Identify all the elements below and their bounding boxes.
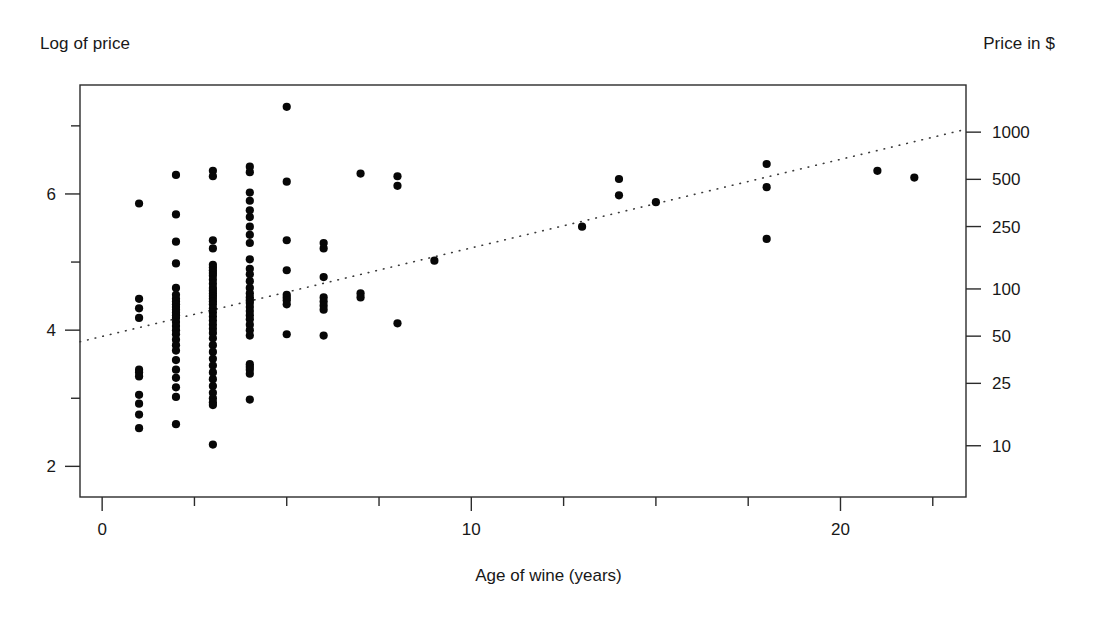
data-point [615,191,623,199]
data-point [283,330,291,338]
data-point [135,372,143,380]
y2-tick-label: 25 [992,374,1011,393]
data-point [172,238,180,246]
data-point [135,199,143,207]
data-point [209,244,217,252]
data-point [135,424,143,432]
data-point [430,257,438,265]
data-point [135,314,143,322]
data-point [356,293,364,301]
data-point [172,393,180,401]
y2-tick-label: 10 [992,437,1011,456]
x-tick-label: 20 [831,520,850,539]
data-point [763,160,771,168]
y-tick-label: 4 [47,321,56,340]
data-point [135,295,143,303]
data-point [910,174,918,182]
data-point [246,197,254,205]
data-point [393,172,401,180]
data-point [356,169,364,177]
y2-tick-label: 1000 [992,123,1030,142]
data-point [283,236,291,244]
y-axis: 246 [47,126,80,476]
data-point [246,168,254,176]
y2-tick-label: 50 [992,327,1011,346]
data-point [209,172,217,180]
data-point [246,332,254,340]
x-axis-title: Age of wine (years) [0,566,1097,586]
data-point [172,420,180,428]
data-point [172,366,180,374]
data-point [172,374,180,382]
data-point [320,244,328,252]
data-point [135,391,143,399]
x-axis: 01020 [97,497,932,539]
secondary-y-axis: 1025501002505001000 [966,123,1030,456]
data-point [172,210,180,218]
data-point [135,304,143,312]
data-point [763,235,771,243]
data-points [135,103,918,449]
data-point [283,266,291,274]
data-point [246,396,254,404]
data-point [172,346,180,354]
data-point [209,440,217,448]
data-point [135,411,143,419]
data-point [172,383,180,391]
data-point [209,401,217,409]
data-point [393,182,401,190]
y-tick-label: 2 [47,457,56,476]
data-point [615,175,623,183]
y2-tick-label: 500 [992,170,1020,189]
data-point [283,300,291,308]
data-point [209,236,217,244]
data-point [763,183,771,191]
data-point [135,400,143,408]
data-point [246,223,254,231]
data-point [246,188,254,196]
y2-tick-label: 250 [992,218,1020,237]
data-point [652,198,660,206]
y-tick-label: 6 [47,185,56,204]
data-point [873,167,881,175]
data-point [172,171,180,179]
scatter-plot-canvas: 01020 246 1025501002505001000 [0,0,1097,622]
data-point [172,356,180,364]
data-point [172,259,180,267]
y2-tick-label: 100 [992,280,1020,299]
data-point [283,103,291,111]
data-point [246,231,254,239]
data-point [283,178,291,186]
x-tick-label: 0 [97,520,106,539]
data-point [578,223,586,231]
data-point [246,213,254,221]
x-tick-label: 10 [462,520,481,539]
data-point [393,319,401,327]
data-point [320,306,328,314]
chart-figure: Log of price Price in $ 01020 246 102550… [0,0,1097,622]
data-point [246,255,254,263]
data-point [320,273,328,281]
data-point [246,370,254,378]
data-point [320,332,328,340]
data-point [246,239,254,247]
